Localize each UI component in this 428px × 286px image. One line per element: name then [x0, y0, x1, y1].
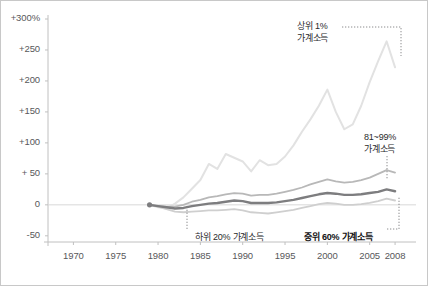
- x-axis-tick-label: 1975: [96, 250, 136, 261]
- annotation-line: 81~99%: [364, 132, 396, 144]
- y-axis-tick-label: + 50: [22, 167, 40, 178]
- y-axis-tick-label: +250: [19, 43, 40, 54]
- annotation-mid60: 중위 60% 가계소득: [304, 232, 373, 244]
- series-line-top1: [150, 41, 395, 208]
- annotation-line: 가계소득: [297, 33, 328, 45]
- x-axis-tick-label: 1985: [180, 250, 220, 261]
- leader-top1: [342, 27, 401, 56]
- annotation-line: 상위 1%: [297, 21, 328, 33]
- annotation-line: 가계소득: [364, 144, 396, 156]
- y-axis-tick-label: +100: [19, 136, 40, 147]
- annotation-line: 중위 60% 가계소득: [304, 232, 373, 244]
- x-axis-tick-label: 1980: [138, 250, 178, 261]
- annotation-line: 하위 20% 가계소득: [195, 232, 264, 244]
- x-axis-tick-label: 1995: [265, 250, 305, 261]
- x-axis-tick-label: 1990: [223, 250, 263, 261]
- series-start-marker: [147, 202, 152, 207]
- leader-mid60: [387, 197, 399, 229]
- y-axis-tick-label: +150: [19, 105, 40, 116]
- y-axis-tick-label: -50: [27, 229, 40, 240]
- annotation-p81_99: 81~99%가계소득: [364, 132, 396, 155]
- x-axis-tick-label: 2000: [307, 250, 347, 261]
- chart-figure: +300%+250+200+150+100+ 500-50 1970197519…: [0, 0, 428, 286]
- x-axis-tick-label: 1970: [53, 250, 93, 261]
- series-line-mid60: [150, 189, 395, 208]
- y-axis-tick-label: 0: [35, 198, 40, 209]
- y-axis-tick-label: +200: [19, 74, 40, 85]
- annotation-bottom20: 하위 20% 가계소득: [195, 232, 264, 244]
- series-line-p81_99: [150, 170, 395, 207]
- x-axis-tick-label: 2008: [375, 250, 415, 261]
- y-axis-tick-label: +300%: [11, 12, 40, 23]
- annotation-top1: 상위 1%가계소득: [297, 21, 328, 44]
